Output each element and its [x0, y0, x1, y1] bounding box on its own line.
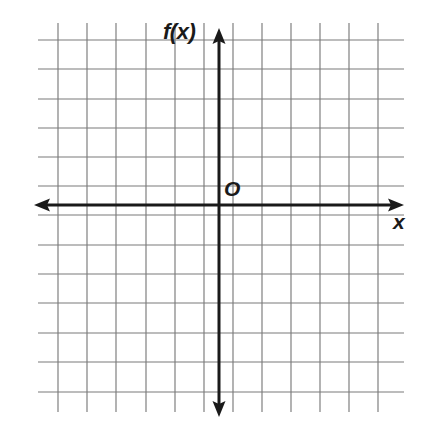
origin-label: O — [224, 178, 240, 199]
coordinate-plane-canvas — [0, 0, 425, 442]
x-axis-label: x — [393, 211, 405, 232]
y-axis — [213, 28, 226, 417]
coordinate-plane-figure: f(x) O x — [0, 0, 425, 442]
y-axis-label: f(x) — [163, 21, 195, 43]
